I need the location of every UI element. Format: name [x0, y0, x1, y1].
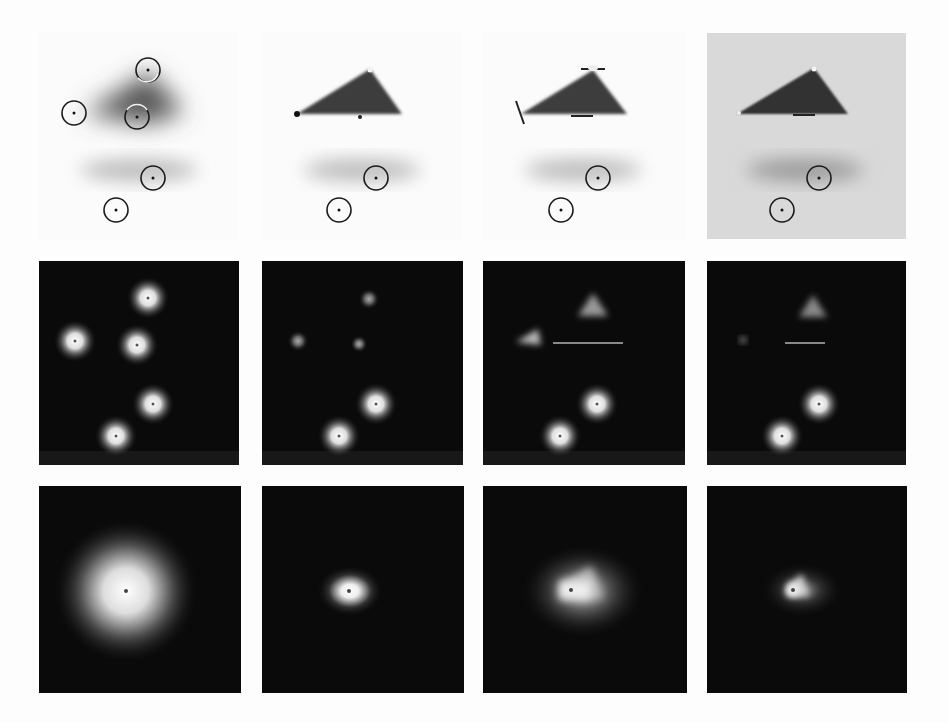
- panel-row3-col1: [39, 486, 241, 693]
- panel-row3-col2: [262, 486, 464, 693]
- panel-row2-col2: [262, 261, 463, 465]
- panel-row1-col4: [707, 33, 906, 239]
- panel-row2-col1: [39, 261, 239, 465]
- heatmap-combined-image: [483, 486, 687, 693]
- heatmap-points-image: [262, 261, 463, 465]
- panel-row3-col4: [707, 486, 907, 693]
- scene-triangle-handles-image: [483, 32, 685, 240]
- heatmap-combined-image: [707, 486, 907, 693]
- panel-row1-col2: [262, 32, 463, 240]
- scene-triangle-image: [262, 32, 463, 240]
- panel-row2-col3: [483, 261, 685, 465]
- panel-row1-col3: [483, 32, 685, 240]
- scene-gray-background-image: [707, 33, 906, 239]
- heatmap-combined-image: [262, 486, 464, 693]
- heatmap-points-image: [39, 261, 239, 465]
- panel-row1-col1: [39, 32, 239, 240]
- scene-blurred-image: [39, 32, 239, 240]
- heatmap-points-image: [483, 261, 685, 465]
- panel-row2-col4: [707, 261, 906, 465]
- panel-row3-col3: [483, 486, 687, 693]
- heatmap-combined-image: [39, 486, 241, 693]
- heatmap-points-image: [707, 261, 906, 465]
